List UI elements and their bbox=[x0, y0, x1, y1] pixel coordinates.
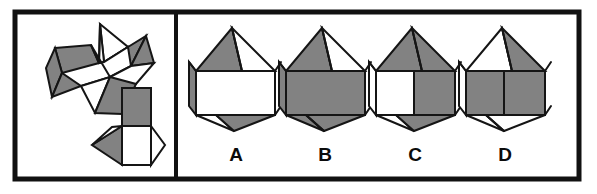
option-b-label: B bbox=[318, 144, 332, 165]
net-face-12 bbox=[122, 88, 151, 126]
d-front-shaded bbox=[466, 71, 545, 115]
option-d-label: D bbox=[498, 144, 512, 165]
net-face-13 bbox=[122, 126, 151, 165]
puzzle-canvas: ABCD bbox=[0, 0, 597, 194]
b-front-shaded bbox=[286, 71, 365, 115]
spatial-reasoning-puzzle: ABCD bbox=[0, 0, 597, 194]
c-front-left-white bbox=[376, 71, 414, 115]
option-a-label: A bbox=[229, 144, 243, 165]
c-front-right-shaded bbox=[414, 71, 455, 115]
a-front-white bbox=[196, 71, 275, 115]
option-c-label: C bbox=[408, 144, 422, 165]
net-edge-0 bbox=[99, 24, 100, 63]
